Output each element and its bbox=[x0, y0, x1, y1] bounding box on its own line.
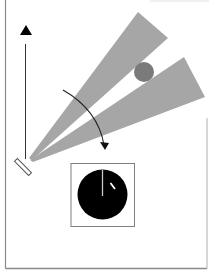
target-circle-icon bbox=[134, 62, 154, 82]
frame-border bbox=[6, 0, 210, 269]
dial-indicator bbox=[71, 164, 135, 227]
diagram-canvas bbox=[0, 0, 209, 271]
vertical-axis-arrow-icon bbox=[20, 25, 32, 159]
light-beams bbox=[29, 12, 205, 162]
mirror-icon bbox=[15, 159, 32, 176]
